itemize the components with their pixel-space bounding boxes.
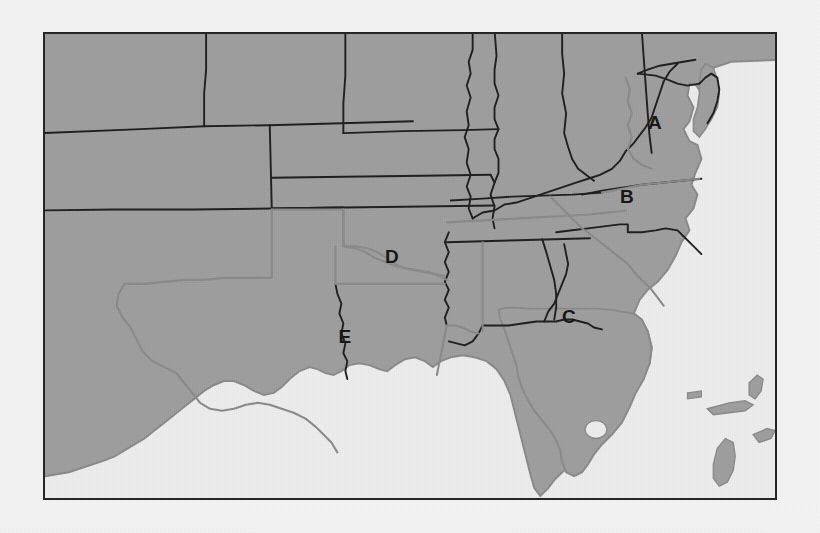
- map-label-d[interactable]: D: [385, 247, 399, 266]
- lake-okeechobee: [585, 421, 607, 439]
- map-frame: A B C D E: [43, 32, 777, 500]
- map-label-a[interactable]: A: [648, 113, 662, 132]
- map-page: A B C D E: [0, 0, 820, 533]
- map-label-e[interactable]: E: [339, 327, 352, 346]
- island-small-cay: [687, 391, 701, 399]
- map-graphic: [45, 34, 775, 498]
- map-label-b[interactable]: B: [620, 187, 634, 206]
- map-label-c[interactable]: C: [562, 307, 576, 326]
